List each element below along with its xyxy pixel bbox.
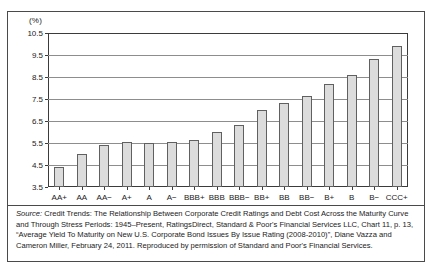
bar [122,142,132,187]
x-axis-tick-label: A− [167,193,177,202]
x-axis-tick-label: BB+ [254,193,269,202]
plot-region: 10.59.58.57.56.55.54.53.5 AA+AAAA−A+AA−B… [48,33,408,187]
x-axis-tick-mark [82,187,83,190]
x-axis-tick-mark [217,187,218,190]
source-text: Credit Trends: The Relationship Between … [16,209,413,250]
bar [347,75,357,187]
x-axis-tick-mark [352,187,353,190]
x-axis-tick-mark [374,187,375,190]
x-axis-tick-label: B− [369,193,379,202]
x-axis-tick-mark [172,187,173,190]
x-axis-tick-label: A+ [122,193,132,202]
y-axis-tick-label: 4.5 [32,161,43,170]
x-axis-tick-mark [127,187,128,190]
x-axis-tick-label: BB [279,193,290,202]
x-axis-tick-mark [194,187,195,190]
bar [99,145,109,187]
x-axis-tick-mark [239,187,240,190]
figure-container: (%) 10.59.58.57.56.55.54.53.5 AA+AAAA−A+… [0,0,432,270]
y-axis-tick-label: 9.5 [32,51,43,60]
x-axis-tick-label: CCC+ [386,193,408,202]
x-axis-tick-mark [329,187,330,190]
bar [212,132,222,187]
x-axis-tick-label: BBB+ [184,193,205,202]
x-axis-tick-mark [397,187,398,190]
bar [144,143,154,187]
x-axis-tick-label: BBB [209,193,225,202]
y-axis-tick-label: 5.5 [32,139,43,148]
y-axis-tick-mark [45,187,48,188]
y-axis-unit-label: (%) [29,16,42,25]
x-axis-tick-label: AA [76,193,87,202]
source-note: Source: Credit Trends: The Relationship … [16,209,418,251]
bar [257,110,267,187]
x-axis-tick-mark [307,187,308,190]
bar [324,84,334,187]
x-axis-tick-mark [59,187,60,190]
y-axis-tick-label: 6.5 [32,117,43,126]
bar [369,59,379,187]
y-axis-tick-label: 7.5 [32,95,43,104]
x-axis-tick-label: BBB− [229,193,250,202]
bar [54,167,64,187]
bar [279,103,289,187]
y-axis-tick-label: 8.5 [32,73,43,82]
x-axis-tick-label: AA+ [52,193,67,202]
source-divider [7,205,425,206]
x-axis-tick-mark [262,187,263,190]
chart-area: (%) 10.59.58.57.56.55.54.53.5 AA+AAAA−A+… [7,11,425,203]
bar [234,125,244,187]
x-axis-tick-mark [104,187,105,190]
bar [302,96,312,187]
bar [392,46,402,187]
x-axis-tick-label: B+ [324,193,334,202]
y-axis-tick-label: 10.5 [27,29,43,38]
x-axis-tick-label: A [147,193,152,202]
x-axis-tick-label: B [349,193,354,202]
bars-group [48,33,408,187]
y-axis-tick-label: 3.5 [32,183,43,192]
bar [167,142,177,187]
x-axis-tick-mark [149,187,150,190]
bar [77,154,87,187]
x-axis-tick-label: AA− [97,193,112,202]
x-axis-tick-mark [284,187,285,190]
x-axis-tick-label: BB− [299,193,314,202]
source-label: Source: [16,209,42,218]
bar [189,140,199,187]
